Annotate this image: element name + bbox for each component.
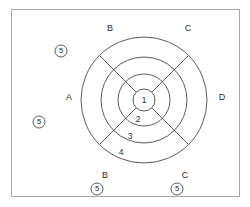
ring-label-1: 1 — [142, 95, 147, 105]
concentric-zone-diagram: 1 2 3 4 B C A D B C 5 5 5 — [0, 0, 250, 207]
spoke-line-upper-right — [152, 55, 189, 92]
ring-label-4: 4 — [119, 147, 124, 157]
figure-root: 1 2 3 4 B C A D B C 5 5 5 — [0, 0, 250, 207]
sector-label-a-left: A — [66, 92, 72, 102]
marker-label: 5 — [95, 184, 99, 193]
spoke-line-lower-right — [152, 108, 189, 145]
marker-label: 5 — [175, 184, 179, 193]
sector-label-c-bottom: C — [182, 170, 189, 180]
marker-5-upper-left: 5 — [55, 45, 67, 57]
sector-label-d-right: D — [219, 92, 226, 102]
marker-5-mid-left: 5 — [33, 116, 45, 128]
spoke-line-upper-left — [99, 55, 136, 92]
ring-label-2: 2 — [136, 114, 141, 124]
sector-label-c-top: C — [185, 23, 192, 33]
ring-label-3: 3 — [128, 131, 133, 141]
sector-label-b-bottom: B — [102, 170, 108, 180]
marker-5-bottom-left: 5 — [91, 183, 103, 195]
marker-label: 5 — [37, 117, 41, 126]
marker-5-bottom-right: 5 — [171, 183, 183, 195]
marker-label: 5 — [59, 46, 63, 55]
sector-label-b-top: B — [107, 23, 113, 33]
